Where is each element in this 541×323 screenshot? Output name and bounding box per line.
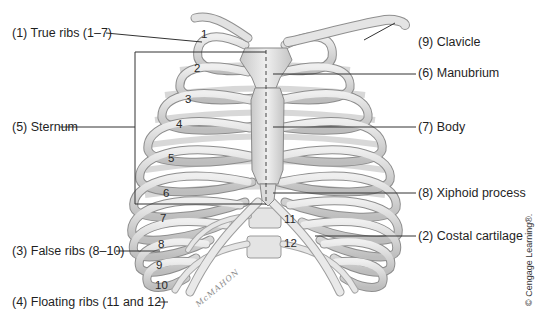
label-clavicle: (9) Clavicle: [418, 35, 481, 49]
sternum-body-shape: [251, 88, 284, 184]
rib-number-5: 5: [168, 152, 174, 164]
label-floating-ribs: (4) Floating ribs (11 and 12): [12, 295, 165, 309]
right-ribs: [275, 37, 398, 290]
rib-number-8: 8: [158, 238, 164, 250]
copyright-credit: © Cengage Learning®.: [524, 214, 534, 306]
label-sternum: (5) Sternum: [12, 120, 78, 134]
rib-number-9: 9: [156, 259, 162, 271]
clavicle-right: [288, 20, 405, 42]
rib-number-3: 3: [185, 93, 191, 105]
label-body: (7) Body: [418, 120, 465, 134]
rib-number-1: 1: [201, 28, 207, 40]
rib-number-12: 12: [284, 237, 297, 249]
rib-number-10: 10: [155, 279, 168, 291]
label-false-ribs: (3) False ribs (8–10): [12, 244, 125, 258]
label-xiphoid-process: (8) Xiphoid process: [418, 186, 526, 200]
label-costal-cartilage: (2) Costal cartilage: [418, 229, 523, 243]
vertebrae: [247, 208, 281, 258]
rib-number-2: 2: [194, 62, 200, 74]
label-manubrium: (6) Manubrium: [418, 66, 499, 80]
rib-cage-diagram: 1 2 3 4 5 6 7 8 9 10 11 12 (1) True ribs…: [0, 0, 541, 323]
rib-number-7: 7: [160, 212, 166, 224]
rib-number-4: 4: [176, 118, 182, 130]
label-true-ribs: (1) True ribs (1–7): [12, 26, 112, 40]
rib-number-11: 11: [284, 213, 296, 225]
rib-number-6: 6: [163, 187, 169, 199]
left-ribs: [132, 37, 255, 290]
